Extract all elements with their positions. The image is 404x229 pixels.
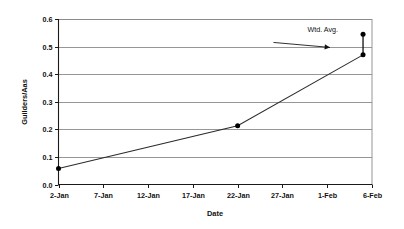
x-tick-label: 12-Jan (137, 191, 160, 200)
annotation-label: Wtd. Avg. (307, 25, 338, 34)
y-tick-label: 0.3 (43, 98, 53, 107)
y-tick-label: 0.5 (43, 43, 53, 52)
data-point-marker (56, 166, 61, 171)
y-tick-label: 0.4 (43, 70, 53, 79)
x-axis-title: Date (207, 209, 223, 218)
x-tick-label: 6-Feb (363, 191, 383, 200)
y-tick-label: 0.2 (43, 125, 53, 134)
y-axis-title: Guilders/Aas (20, 79, 29, 125)
y-tick-label: 0.6 (43, 15, 53, 24)
x-tick-label: 17-Jan (182, 191, 205, 200)
data-point-marker (235, 123, 240, 128)
y-tick-label: 0.1 (43, 153, 53, 162)
chart-container: 0.00.10.20.30.40.50.6 2-Jan7-Jan12-Jan17… (0, 0, 404, 229)
data-point-marker (361, 32, 366, 37)
x-tick-label: 1-Feb (318, 191, 338, 200)
x-tick-label: 7-Jan (94, 191, 113, 200)
y-tick-label: 0.0 (43, 181, 53, 190)
line-chart: 0.00.10.20.30.40.50.6 2-Jan7-Jan12-Jan17… (0, 0, 404, 229)
x-tick-label: 22-Jan (227, 191, 250, 200)
x-tick-label: 2-Jan (50, 191, 69, 200)
x-tick-label: 27-Jan (271, 191, 294, 200)
data-point-marker (361, 52, 366, 57)
